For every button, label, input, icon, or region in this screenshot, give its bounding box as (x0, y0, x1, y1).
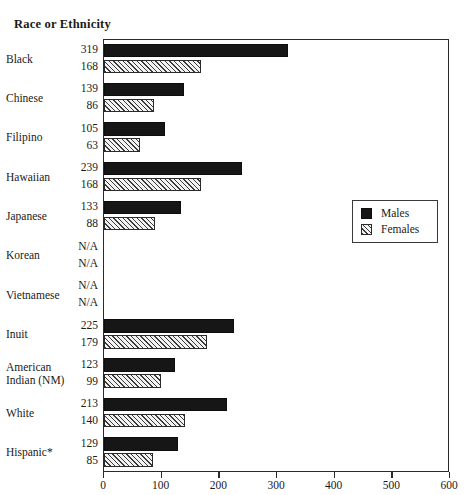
bar-female (104, 335, 207, 349)
value-label-female: 140 (58, 414, 98, 426)
value-label-female: N/A (58, 296, 98, 308)
x-axis-tick-label: 0 (100, 479, 106, 491)
bar-male (104, 162, 242, 176)
bar-female (104, 60, 201, 74)
bar-male (104, 44, 288, 58)
bar-male (104, 319, 234, 333)
table-row: Inuit225179 (0, 315, 472, 354)
legend-item-males: Males (361, 207, 439, 221)
x-axis-tick-label: 600 (440, 479, 457, 491)
race-ethnicity-bar-chart: Race or Ethnicity Black319168Chinese1398… (0, 0, 472, 495)
value-label-female: 168 (58, 60, 98, 72)
x-axis-tick (103, 472, 104, 478)
x-axis-tick (161, 472, 162, 478)
table-row: Hawaiian239168 (0, 157, 472, 196)
value-label-female: 85 (58, 454, 98, 466)
x-axis-tick (276, 472, 277, 478)
legend-label-males: Males (381, 207, 409, 220)
x-axis-tick-label: 500 (383, 479, 400, 491)
value-label-female: N/A (58, 257, 98, 269)
value-label-female: 88 (58, 217, 98, 229)
x-axis-tick (334, 472, 335, 478)
bar-male (104, 398, 227, 412)
legend: Males Females (352, 200, 438, 243)
bar-female (104, 217, 155, 231)
table-row: Filipino10563 (0, 118, 472, 157)
x-axis-tick (218, 472, 219, 478)
bar-male (104, 437, 178, 451)
x-axis-tick (391, 472, 392, 478)
table-row: Hispanic*12985 (0, 433, 472, 472)
bar-male (104, 201, 181, 215)
table-row: Black319168 (0, 39, 472, 78)
value-label-female: 179 (58, 336, 98, 348)
value-label-female: 168 (58, 178, 98, 190)
value-label-male: 213 (58, 397, 98, 409)
legend-swatch-males-icon (361, 208, 372, 219)
value-label-male: 225 (58, 319, 98, 331)
legend-label-females: Females (381, 223, 419, 236)
bar-female (104, 453, 153, 467)
page-title: Race or Ethnicity (14, 17, 111, 32)
value-label-male: 319 (58, 43, 98, 55)
legend-swatch-females-icon (361, 224, 372, 235)
bar-female (104, 138, 140, 152)
value-label-male: 139 (58, 82, 98, 94)
value-label-male: 123 (58, 358, 98, 370)
value-label-male: N/A (58, 240, 98, 252)
x-axis-tick-label: 100 (152, 479, 169, 491)
value-label-male: 129 (58, 437, 98, 449)
bar-female (104, 99, 154, 113)
table-row: White213140 (0, 393, 472, 432)
value-label-female: 63 (58, 139, 98, 151)
bar-female (104, 374, 161, 388)
bar-male (104, 122, 165, 136)
value-label-male: 239 (58, 161, 98, 173)
bar-male (104, 358, 175, 372)
bar-male (104, 83, 184, 97)
legend-item-females: Females (361, 223, 439, 237)
value-label-male: N/A (58, 279, 98, 291)
value-label-male: 105 (58, 122, 98, 134)
table-row: Chinese13986 (0, 78, 472, 117)
value-label-male: 133 (58, 200, 98, 212)
x-axis-tick-label: 400 (325, 479, 342, 491)
bar-female (104, 414, 185, 428)
value-label-female: 99 (58, 375, 98, 387)
category-rows: Black319168Chinese13986Filipino10563Hawa… (0, 39, 472, 472)
x-axis-tick-label: 200 (210, 479, 227, 491)
value-label-female: 86 (58, 99, 98, 111)
x-axis-tick-label: 300 (267, 479, 284, 491)
x-axis-tick (449, 472, 450, 478)
table-row: VietnameseN/AN/A (0, 275, 472, 314)
table-row: American Indian (NM)12399 (0, 354, 472, 393)
x-axis: 0100200300400500600 (103, 472, 449, 495)
bar-female (104, 178, 201, 192)
